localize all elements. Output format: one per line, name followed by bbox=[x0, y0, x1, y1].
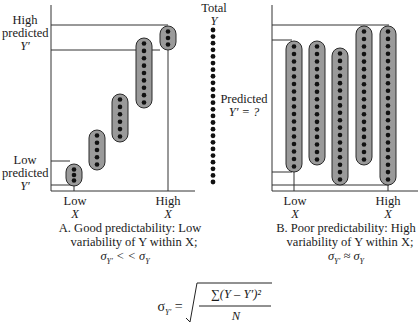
total-y-point bbox=[211, 180, 216, 185]
data-point bbox=[292, 157, 297, 162]
data-point bbox=[315, 142, 320, 147]
total-y-point bbox=[211, 140, 216, 145]
data-point bbox=[362, 120, 367, 125]
data-point bbox=[386, 125, 391, 130]
data-point bbox=[315, 127, 320, 132]
data-point bbox=[142, 100, 147, 105]
data-point bbox=[166, 29, 171, 34]
data-point bbox=[315, 150, 320, 155]
predicted-unknown-label: Predicted Y′ = ? bbox=[218, 93, 270, 119]
data-point bbox=[315, 52, 320, 57]
total-y-point bbox=[211, 133, 216, 138]
formula-denominator: N bbox=[200, 309, 272, 322]
data-point bbox=[315, 82, 320, 87]
data-point bbox=[292, 97, 297, 102]
data-point bbox=[292, 59, 297, 64]
data-point bbox=[362, 112, 367, 117]
data-point bbox=[362, 127, 367, 132]
caption-line: σY′ < < σY bbox=[50, 249, 210, 269]
data-point bbox=[386, 133, 391, 138]
data-point bbox=[338, 125, 343, 130]
data-point bbox=[338, 88, 343, 93]
data-point bbox=[386, 74, 391, 79]
data-point bbox=[386, 66, 391, 71]
data-point bbox=[338, 66, 343, 71]
data-point bbox=[95, 155, 100, 160]
data-point bbox=[386, 111, 391, 116]
total-y-point bbox=[211, 107, 216, 112]
data-point bbox=[292, 164, 297, 169]
formula-lhs: σY′ = bbox=[150, 300, 190, 320]
data-point bbox=[362, 59, 367, 64]
data-point bbox=[386, 44, 391, 49]
panel-b-x-high-label: High X bbox=[372, 195, 404, 221]
data-point bbox=[72, 167, 77, 172]
data-point bbox=[95, 162, 100, 167]
total-y-point bbox=[211, 100, 216, 105]
total-y-point bbox=[211, 153, 216, 158]
total-y-point bbox=[211, 28, 216, 33]
data-point bbox=[315, 74, 320, 79]
panel-a-x-low-label: Low X bbox=[60, 195, 90, 221]
data-point bbox=[362, 150, 367, 155]
data-point bbox=[142, 85, 147, 90]
data-point bbox=[72, 173, 77, 178]
panel-a-caption: A. Good predictability: Low variability … bbox=[50, 221, 210, 269]
data-point bbox=[292, 82, 297, 87]
data-point bbox=[386, 118, 391, 123]
data-point bbox=[338, 110, 343, 115]
data-point bbox=[292, 134, 297, 139]
data-point bbox=[386, 37, 391, 42]
data-point bbox=[118, 112, 123, 117]
data-point bbox=[315, 97, 320, 102]
total-y-point bbox=[211, 160, 216, 165]
data-point bbox=[338, 162, 343, 167]
data-point bbox=[95, 140, 100, 145]
formula-numerator: ∑(Y – Y′)² bbox=[200, 287, 272, 301]
data-point bbox=[118, 127, 123, 132]
data-point bbox=[386, 170, 391, 175]
data-point bbox=[292, 149, 297, 154]
total-y-point bbox=[211, 147, 216, 152]
label-line: Y′ bbox=[2, 40, 48, 53]
data-point bbox=[338, 177, 343, 182]
data-point bbox=[362, 89, 367, 94]
total-y-point bbox=[211, 54, 216, 59]
caption-line: variability of Y within X; bbox=[266, 235, 418, 249]
data-point bbox=[118, 97, 123, 102]
data-point bbox=[386, 59, 391, 64]
data-point bbox=[315, 67, 320, 72]
label-line: Y′ bbox=[2, 180, 48, 193]
label-line: X bbox=[152, 208, 184, 221]
low-predicted-label: Low predicted Y′ bbox=[2, 154, 48, 193]
label-line: Y′ = ? bbox=[218, 106, 270, 119]
data-point bbox=[362, 135, 367, 140]
data-point bbox=[315, 59, 320, 64]
data-point bbox=[338, 73, 343, 78]
data-point bbox=[315, 112, 320, 117]
caption-line: variability of Y within X; bbox=[50, 235, 210, 249]
data-point bbox=[118, 119, 123, 124]
data-point bbox=[338, 155, 343, 160]
data-point bbox=[386, 103, 391, 108]
total-y-point bbox=[211, 127, 216, 132]
data-point bbox=[362, 29, 367, 34]
data-point bbox=[362, 67, 367, 72]
total-y-point bbox=[211, 74, 216, 79]
data-point bbox=[166, 42, 171, 47]
data-point bbox=[315, 89, 320, 94]
data-point bbox=[292, 104, 297, 109]
total-y-point bbox=[211, 34, 216, 39]
data-point bbox=[166, 36, 171, 41]
data-point bbox=[386, 51, 391, 56]
data-point bbox=[95, 133, 100, 138]
label-line: Y bbox=[197, 15, 231, 28]
data-point bbox=[118, 105, 123, 110]
data-point bbox=[386, 148, 391, 153]
data-point bbox=[315, 120, 320, 125]
data-point bbox=[362, 157, 367, 162]
data-point bbox=[292, 67, 297, 72]
data-point bbox=[338, 118, 343, 123]
data-point bbox=[362, 37, 367, 42]
data-point bbox=[292, 127, 297, 132]
